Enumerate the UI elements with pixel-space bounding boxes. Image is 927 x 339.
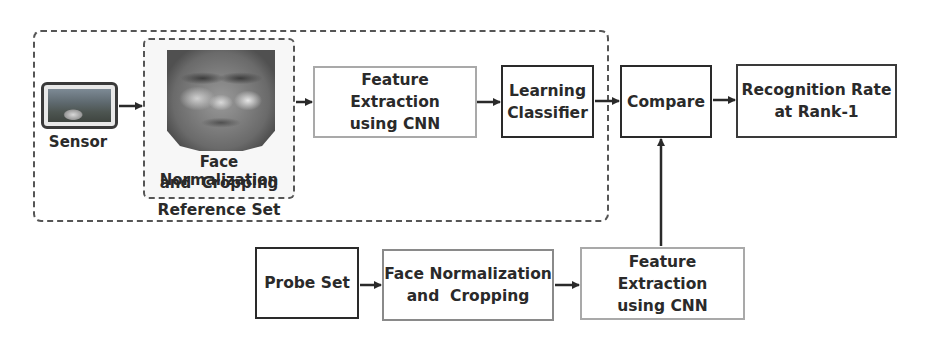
connector-arrows [0,0,927,339]
